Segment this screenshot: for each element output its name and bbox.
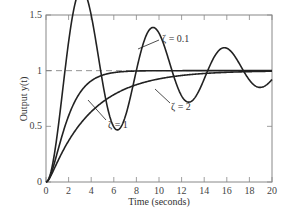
series-zeta-1 [46, 71, 272, 182]
x-tick-label: 20 [267, 185, 277, 196]
annotation-zeta-0.1: ζ = 0.1 [162, 33, 189, 45]
x-tick-label: 6 [111, 185, 116, 196]
x-tick-label: 16 [222, 185, 232, 196]
y-tick-label: 1.5 [30, 9, 43, 20]
x-tick-label: 0 [44, 185, 49, 196]
y-tick-label: 0 [37, 176, 42, 187]
annotation-zeta-2: ζ = 2 [171, 101, 191, 113]
x-tick-label: 2 [66, 185, 71, 196]
x-axis-label: Time (seconds) [128, 196, 190, 208]
x-tick-label: 10 [154, 185, 164, 196]
x-tick-label: 8 [134, 185, 139, 196]
y-tick-label: 1 [37, 65, 42, 76]
arrow-zeta-0.1 [138, 40, 159, 49]
x-tick-label: 4 [89, 185, 94, 196]
y-tick-label: 0.5 [30, 120, 43, 131]
step-response-chart: 0246810121416182000.511.5 Time (seconds)… [0, 0, 286, 219]
x-tick-label: 18 [244, 185, 254, 196]
series-zeta-2 [46, 71, 272, 182]
curves [46, 0, 272, 182]
arrow-zeta-2 [155, 89, 170, 103]
x-tick-label: 12 [177, 185, 187, 196]
annotation-zeta-1: ζ = 1 [108, 119, 128, 131]
series-zeta-0.1 [46, 0, 272, 182]
y-axis-label: Output y(t) [18, 77, 30, 122]
arrow-zeta-1 [88, 100, 106, 120]
plot-area: 0246810121416182000.511.5 [30, 9, 278, 196]
x-tick-label: 14 [199, 185, 209, 196]
